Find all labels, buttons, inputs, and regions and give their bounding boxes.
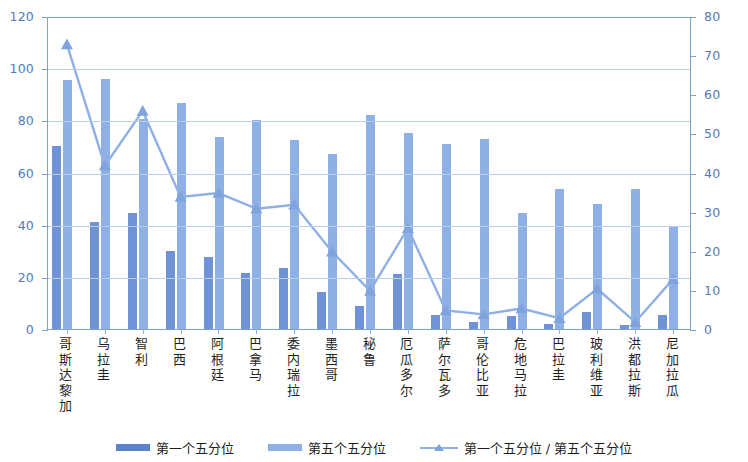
ratio-line [67,44,673,322]
legend-item[interactable]: 第一个五分位 / 第五个五分位 [420,438,633,457]
y-axis-right-tick-label: 70 [704,48,720,63]
line-marker [61,38,73,49]
y-axis-right-tick-label: 50 [704,126,720,141]
legend-swatch-first-quintile [116,444,150,451]
y-axis-right-tick [690,134,696,135]
x-axis-label: 巴拉圭 [551,336,566,383]
y-axis-right-tick-label: 60 [704,87,720,102]
y-axis-right-tick [690,174,696,175]
chart-legend: 第一个五分位第五个五分位第一个五分位 / 第五个五分位 [0,438,748,457]
y-axis-left-tick-label: 40 [0,218,34,233]
y-axis-left-tick-label: 20 [0,270,34,285]
y-axis-right-tick-label: 40 [704,166,720,181]
x-axis-label: 墨西哥 [324,336,339,383]
legend-item[interactable]: 第五个五分位 [268,438,386,457]
y-axis-left-tick [42,278,48,279]
y-axis-left-tick [42,330,48,331]
line-marker-icon [420,443,458,452]
y-axis-left-tick [42,121,48,122]
gridline [48,278,690,279]
y-axis-right-tick [690,330,696,331]
y-axis-left-tick-label: 120 [0,9,34,24]
legend-label: 第五个五分位 [308,438,386,457]
legend-label: 第一个五分位 [156,438,234,457]
x-axis-label: 阿根廷 [210,336,225,383]
y-axis-right-tick [690,252,696,253]
y-axis-right-tick [690,213,696,214]
y-axis-right-tick-label: 30 [704,205,720,220]
x-axis-label: 洪都拉斯 [627,336,642,398]
y-axis-right-tick [690,56,696,57]
x-axis-label: 尼加拉瓜 [665,336,680,398]
gridline [48,226,690,227]
y-axis-left-tick-label: 0 [0,322,34,337]
x-axis-label: 玻利维亚 [589,336,604,398]
legend-item[interactable]: 第一个五分位 [116,438,234,457]
y-axis-left-tick [42,174,48,175]
gridline [48,121,690,122]
y-axis-right-tick-label: 0 [704,322,712,337]
gridline [48,17,690,18]
y-axis-left-tick [42,69,48,70]
y-axis-right-tick [690,95,696,96]
x-axis-label: 危地马拉 [513,336,528,398]
line-marker [137,105,149,116]
line-marker [402,222,414,233]
y-axis-right-tick-label: 20 [704,244,720,259]
x-axis-label: 厄瓜多尔 [399,336,414,398]
gridline [48,174,690,175]
x-axis-label: 智利 [134,336,149,367]
y-axis-right-tick-label: 80 [704,9,720,24]
x-axis-label: 哥斯达黎加 [58,336,73,414]
x-axis-label: 委内瑞拉 [286,336,301,398]
y-axis-left-tick [42,226,48,227]
x-axis-label: 巴拿马 [248,336,263,383]
x-axis-label: 秘鲁 [362,336,377,367]
chart-container: 020406080100120 01020304050607080 哥斯达黎加乌… [0,0,748,462]
y-axis-right-tick [690,291,696,292]
legend-swatch-fifth-quintile [268,444,302,451]
y-axis-left-tick-label: 100 [0,61,34,76]
y-axis-right-tick [690,17,696,18]
x-axis-label: 巴西 [172,336,187,367]
line-marker [591,283,603,294]
x-axis-labels: 哥斯达黎加乌拉圭智利巴西阿根廷巴拿马委内瑞拉墨西哥秘鲁厄瓜多尔萨尔瓦多哥伦比亚危… [47,336,691,434]
y-axis-left-tick [42,17,48,18]
line-marker [516,302,528,313]
x-axis-label: 乌拉圭 [96,336,111,383]
x-axis-label: 萨尔瓦多 [437,336,452,398]
legend-label: 第一个五分位 / 第五个五分位 [464,438,633,457]
y-axis-left-tick-label: 60 [0,166,34,181]
x-axis-label: 哥伦比亚 [475,336,490,398]
gridline [48,69,690,70]
plot-area [47,17,691,330]
y-axis-left-tick-label: 80 [0,113,34,128]
y-axis-right-tick-label: 10 [704,283,720,298]
